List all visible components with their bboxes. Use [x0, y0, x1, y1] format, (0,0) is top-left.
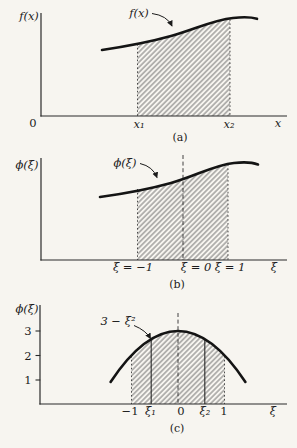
panel-b-curve-label: ϕ(ξ): [113, 156, 136, 170]
panel-b-curve-label-arrow: [140, 164, 157, 178]
panel-c-xtick-xi2: ξ₂: [200, 404, 211, 418]
panel-a-origin-label: 0: [29, 116, 36, 130]
panel-a-curve-label-arrow: [152, 14, 172, 27]
panel-a-shaded-area: [138, 14, 231, 116]
panel-b-caption: (b): [169, 278, 185, 291]
panel-b-y-axis-label: ϕ(ξ): [15, 158, 38, 172]
panel-a-x1-tick-label: x₁: [133, 117, 144, 131]
figure-gauss-quadrature: f(x) f(x) 0 x₁ x₂ x (a) ϕ(ξ) ϕ(ξ) ξ = −1…: [0, 0, 297, 448]
panel-c-ytick-label-3: 3: [24, 324, 31, 338]
panel-c-curve-label: 3 − ξ²: [100, 314, 136, 328]
panel-b-tick-zero: ξ = 0: [181, 260, 212, 274]
panel-a-y-axis-label: f(x): [18, 9, 39, 23]
panel-a-curve-label: f(x): [128, 6, 149, 20]
panel-c-y-axis-label: ϕ(ξ): [15, 302, 38, 316]
panel-c-x-axis-label: ξ: [270, 404, 277, 418]
panel-c-ytick-label-1: 1: [24, 373, 31, 387]
panel-c-caption: (c): [170, 422, 185, 435]
panel-b-tick-one: ξ = 1: [215, 260, 246, 274]
panel-c-plot: ϕ(ξ) 3 2 1 3 − ξ² −1 ξ₁ 0 ξ₂ 1 ξ (c): [0, 296, 297, 448]
panel-c-curve-label-arrow: [134, 326, 151, 339]
panel-c-xtick-0: 0: [177, 404, 184, 418]
panel-c-xtick-1: 1: [220, 404, 227, 418]
panel-a-x2-tick-label: x₂: [223, 117, 234, 131]
panel-a-caption: (a): [172, 131, 187, 144]
panel-b-plot: ϕ(ξ) ϕ(ξ) ξ = −1 ξ = 0 ξ = 1 ξ (b): [0, 150, 297, 296]
panel-a-x-axis-label: x: [275, 116, 282, 130]
panel-c-ytick-label-2: 2: [24, 349, 31, 363]
panel-b-tick-minus-one: ξ = −1: [113, 260, 153, 274]
panel-a-plot: f(x) f(x) 0 x₁ x₂ x (a): [0, 0, 297, 150]
panel-b-x-axis-label: ξ: [271, 260, 278, 274]
panel-c-xtick-xi1: ξ₁: [145, 404, 156, 418]
panel-c-xtick-minus1: −1: [122, 404, 139, 418]
